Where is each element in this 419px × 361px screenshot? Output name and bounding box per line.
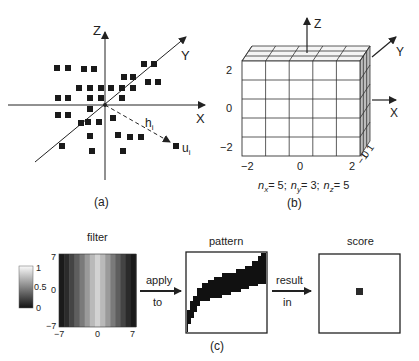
colorbar-tick-0: 0 (36, 303, 41, 313)
scatter-point (76, 85, 82, 91)
scatter-point (87, 85, 93, 91)
grid-size-formula: nx= 5;ny= 3;nz= 5 (258, 179, 349, 194)
scatter-point (141, 61, 147, 67)
pattern-title: pattern (209, 235, 243, 247)
cube-top-face (242, 46, 370, 61)
x-tick-2: 2 (349, 160, 355, 172)
x-label: X (196, 111, 205, 126)
score-peak (356, 288, 363, 295)
score-title: score (347, 235, 374, 247)
scatter-points (54, 61, 161, 154)
y-axis-b (372, 37, 396, 57)
y-label-b: Y (396, 45, 404, 59)
cube-front-face (242, 61, 360, 156)
h-label: hi (145, 116, 154, 132)
z-label: Z (93, 23, 101, 38)
panel-b: Z Y X 2 0 −2 −2 0 2 −1 0 1 nx= 5;ny= 3;n… (220, 17, 404, 210)
scatter-point (127, 134, 133, 140)
scatter-point (151, 61, 157, 67)
filter-image (59, 254, 137, 327)
z-tick-0: 0 (226, 102, 232, 114)
x-label-b: X (390, 106, 398, 120)
scatter-point (138, 134, 144, 140)
scatter-point (110, 115, 116, 121)
scatter-point (55, 112, 61, 118)
scatter-point (145, 79, 151, 85)
scatter-point (89, 148, 95, 154)
scatter-point (78, 120, 84, 126)
scatter-point (85, 119, 91, 125)
apply-label: apply (146, 274, 173, 286)
to-label: to (153, 296, 162, 308)
u-label: ui (182, 141, 191, 157)
scatter-point (121, 74, 127, 80)
scatter-point (65, 95, 71, 101)
h-vector (105, 105, 170, 142)
scatter-point (55, 95, 61, 101)
scatter-point (98, 85, 104, 91)
scatter-point (155, 79, 161, 85)
z-label-b: Z (314, 17, 321, 31)
scatter-point (87, 133, 93, 139)
z-tick-2: 2 (226, 64, 232, 76)
scatter-point (91, 66, 97, 72)
scatter-point (87, 95, 93, 101)
caption-a: (a) (94, 195, 109, 209)
panel-a: Z Y X hi ui (a) (8, 23, 205, 209)
scatter-point (119, 85, 125, 91)
colorbar-tick-0.5: 0.5 (34, 282, 47, 292)
scatter-point (81, 66, 87, 72)
figure: Z Y X hi ui (a) Z Y X 2 0 −2 −2 0 2 −1 0… (0, 0, 419, 361)
filter-title: filter (87, 231, 108, 243)
result-label: result (276, 274, 303, 286)
scatter-point (120, 148, 126, 154)
scatter-point (98, 95, 104, 101)
filter-x-tick-neg7: −7 (54, 329, 64, 339)
scatter-point (87, 106, 93, 112)
x-tick-neg2: −2 (241, 160, 254, 172)
caption-b: (b) (287, 196, 302, 210)
scatter-point (65, 112, 71, 118)
caption-c: (c) (210, 339, 224, 353)
scatter-point (119, 95, 125, 101)
origin (103, 103, 107, 107)
cube-side-face (360, 46, 370, 156)
filter-x-tick-7: 7 (130, 329, 135, 339)
y-label: Y (181, 48, 190, 63)
scatter-point (130, 85, 136, 91)
in-label: in (283, 296, 292, 308)
scatter-point (115, 132, 121, 138)
scatter-point (130, 74, 136, 80)
scatter-point (59, 143, 65, 149)
scatter-point (108, 85, 114, 91)
filter-x-tick-0: 0 (95, 329, 100, 339)
x-tick-0: 0 (297, 160, 303, 172)
colorbar-tick-1: 1 (36, 263, 41, 273)
z-tick-neg2: −2 (220, 141, 233, 153)
scatter-point (96, 119, 102, 125)
filter-y-tick-0: 0 (51, 285, 56, 295)
u-point (173, 143, 179, 149)
scatter-point (54, 65, 60, 71)
panel-c: 1 0.5 0 filter 7 0 −7 −7 0 7 apply to pa… (19, 231, 400, 353)
filter-y-tick-7: 7 (51, 252, 56, 262)
colorbar (19, 266, 33, 308)
scatter-point (65, 65, 71, 71)
